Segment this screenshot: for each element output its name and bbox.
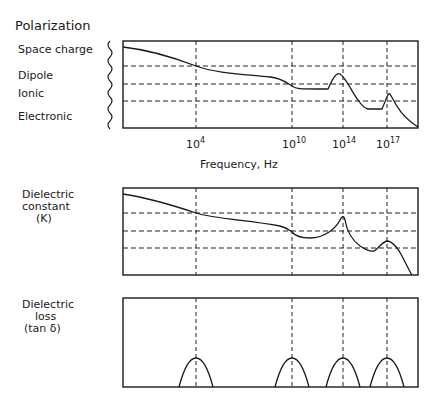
- tick-1e14: 1014: [332, 136, 356, 151]
- panel-dielectric-loss: [123, 298, 418, 387]
- panel-dielectric-constant: [123, 188, 418, 275]
- dielectric-diagram: Polarization Space charge Dipole Ionic E…: [0, 0, 438, 404]
- label-electronic: Electronic: [18, 110, 72, 123]
- label-dipole: Dipole: [18, 69, 53, 82]
- label-space-charge: Space charge: [18, 43, 93, 56]
- tick-1e10: 1010: [282, 136, 306, 151]
- panel2-label-line3: (K): [36, 212, 52, 225]
- x-axis-label: Frequency, Hz: [200, 158, 278, 171]
- panel3-label-line3: (tan δ): [24, 322, 61, 335]
- brace-icon: [108, 41, 112, 129]
- dielectric-constant-curve: [123, 194, 412, 275]
- label-ionic: Ionic: [18, 87, 44, 100]
- tick-1e17: 1017: [376, 136, 400, 151]
- panel-polarization: [123, 41, 418, 128]
- diagram-title: Polarization: [15, 18, 91, 33]
- polarization-curve: [123, 47, 418, 127]
- tick-1e4: 104: [186, 136, 205, 151]
- x-axis-ticks: 104 1010 1014 1017: [186, 136, 400, 151]
